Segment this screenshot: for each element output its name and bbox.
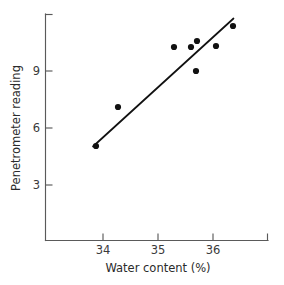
scatter-plot-figure: 9 6 3 34 35 36 Water content (%) Penetro… xyxy=(0,0,284,285)
data-point xyxy=(230,23,236,29)
data-point xyxy=(115,104,121,110)
data-point xyxy=(171,44,177,50)
y-axis-title: Penetrometer reading xyxy=(9,65,23,191)
y-tick-label-9: 9 xyxy=(33,64,40,78)
y-tick-label-6: 6 xyxy=(33,121,40,135)
x-tick-label-34: 34 xyxy=(96,243,111,257)
x-tick-label-36: 36 xyxy=(206,243,221,257)
data-point xyxy=(194,38,200,44)
x-axis-title: Water content (%) xyxy=(105,261,210,275)
data-point xyxy=(93,143,99,149)
regression-line xyxy=(93,19,234,147)
x-tick-label-35: 35 xyxy=(151,243,166,257)
data-point xyxy=(188,44,194,50)
data-point xyxy=(213,43,219,49)
data-point xyxy=(193,68,199,74)
y-tick-label-3: 3 xyxy=(33,178,40,192)
plot-canvas: 9 6 3 34 35 36 Water content (%) Penetro… xyxy=(0,0,284,285)
